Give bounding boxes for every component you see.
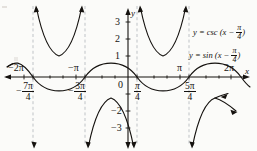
sin-equation-lhs: y = sin (x − bbox=[189, 50, 229, 60]
y-tick-2: 2 bbox=[115, 34, 120, 44]
sin-equation-fraction: π 4 bbox=[231, 47, 237, 65]
numerator: π bbox=[134, 81, 141, 91]
numerator: π bbox=[231, 47, 237, 55]
denominator: 4 bbox=[22, 91, 34, 102]
csc-equation-lhs: y = csc (x − bbox=[193, 27, 234, 37]
y-tick-3: 3 bbox=[115, 17, 120, 27]
x-tick-neg-2pi: −2π bbox=[8, 63, 24, 73]
csc-branch-down-right bbox=[193, 98, 237, 146]
x-axis bbox=[4, 74, 250, 79]
y-axis-label: y bbox=[131, 9, 135, 18]
x-tick-5pi-4: 5π 4 bbox=[184, 81, 196, 103]
denominator: 4 bbox=[184, 91, 196, 102]
sin-equation-label: y = sin (x − π 4 ) bbox=[189, 47, 240, 65]
numerator: 3π bbox=[74, 81, 86, 91]
sin-equation-rhs: ) bbox=[237, 50, 240, 60]
numerator: π bbox=[236, 24, 242, 32]
numerator: 7π bbox=[22, 81, 34, 91]
scan-smudge-left bbox=[14, 57, 18, 61]
y-tick-neg-2: −2 bbox=[111, 106, 122, 116]
denominator: 4 bbox=[74, 91, 86, 102]
y-axis bbox=[125, 8, 130, 149]
x-axis-label: x bbox=[245, 67, 249, 76]
csc-equation-fraction: π 4 bbox=[236, 24, 242, 42]
numerator: 5π bbox=[184, 81, 196, 91]
csc-equation-label: y = csc (x − π 4 ) bbox=[193, 24, 245, 42]
csc-equation-rhs: ) bbox=[242, 27, 245, 37]
origin-label: 0 bbox=[118, 80, 123, 90]
y-tick-neg-3: −3 bbox=[111, 123, 122, 133]
x-tick-neg-3pi-4: − 3π 4 bbox=[68, 81, 86, 103]
x-tick-neg-7pi-4: − 7π 4 bbox=[16, 81, 34, 103]
x-tick-pi-4: π 4 bbox=[134, 81, 141, 103]
y-tick-1: 1 bbox=[115, 51, 120, 61]
csc-branch-up-left bbox=[37, 8, 82, 56]
x-tick-pi: π bbox=[177, 63, 182, 73]
graph-canvas bbox=[0, 0, 257, 151]
denominator: 4 bbox=[231, 55, 237, 64]
denominator: 4 bbox=[134, 91, 141, 102]
x-tick-neg-pi: −π bbox=[68, 63, 79, 73]
denominator: 4 bbox=[236, 32, 242, 41]
scan-smudge-top-left bbox=[2, 6, 7, 8]
csc-branch-up-right bbox=[141, 8, 186, 56]
